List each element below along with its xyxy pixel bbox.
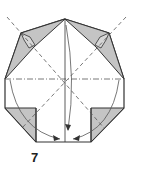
- flap-bottom-right: [91, 108, 124, 142]
- step-number: 7: [31, 150, 38, 165]
- origami-diagram: [0, 0, 143, 171]
